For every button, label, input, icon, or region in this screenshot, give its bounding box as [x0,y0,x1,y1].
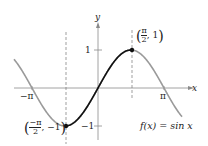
tick-label-one: 1 [85,46,91,55]
x-axis-label: x [192,84,197,93]
tick-label-pi: π [160,92,166,101]
tick-label-neg-one: −1 [81,122,94,131]
point-max [130,48,134,52]
point-label-min: (−π2, −1) [24,119,66,137]
y-axis-arrow-icon [96,22,100,28]
tick-label-neg-pi: −π [20,92,33,101]
point-label-max: (π2, 1) [136,27,164,45]
y-axis-label: y [95,13,100,22]
function-label: f(x) = sin x [140,121,193,131]
